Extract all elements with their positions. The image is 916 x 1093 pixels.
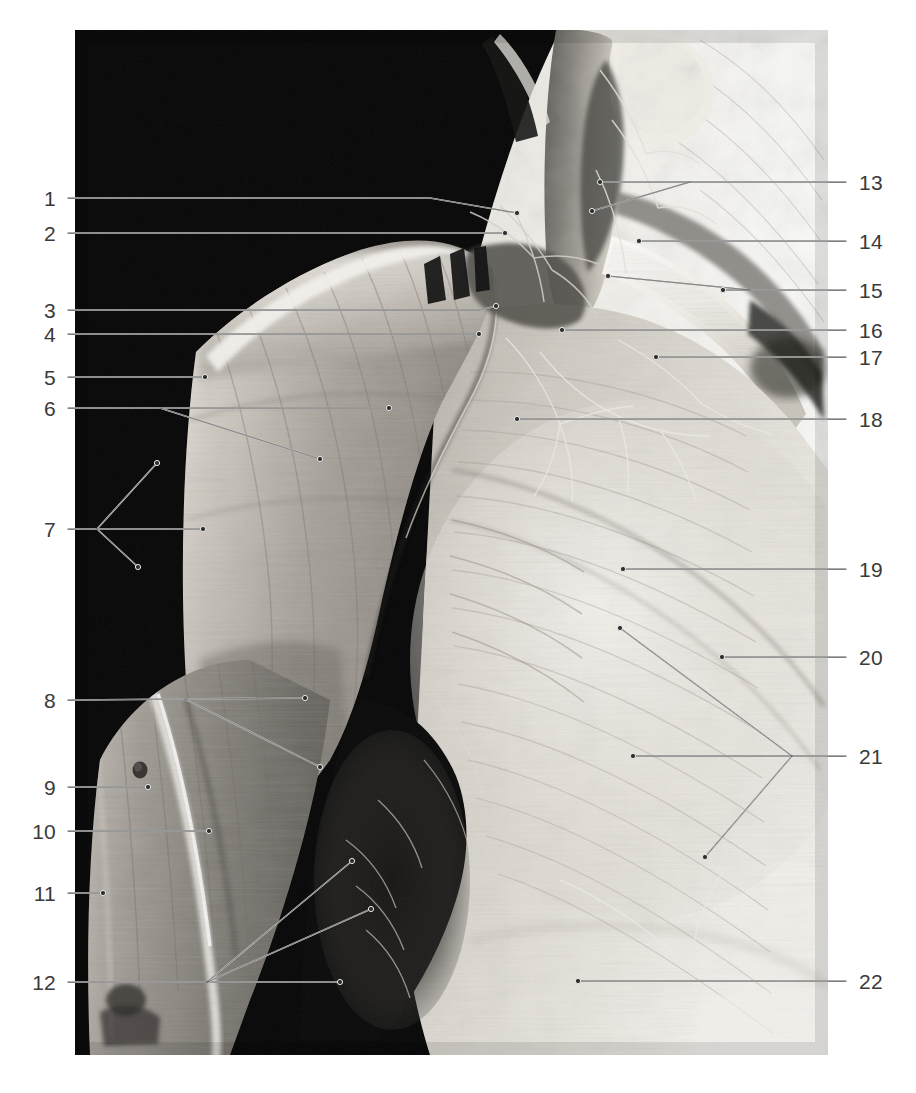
leader-endpoint-right-22 [575,978,580,983]
label-number-4: 4 [44,324,56,345]
anatomical-plate [0,0,916,1093]
label-number-14: 14 [859,231,883,252]
label-number-11: 11 [34,883,56,904]
leader-endpoint-left-6b [317,456,322,461]
leader-endpoint-left-8a [302,695,307,700]
label-number-10: 10 [32,821,56,842]
leader-endpoint-left-11 [100,890,105,895]
label-number-7: 7 [44,519,56,540]
label-number-12: 12 [32,972,56,993]
leader-endpoint-left-7b [200,526,205,531]
leader-endpoint-right-17 [653,354,658,359]
leader-endpoint-right-19 [620,566,625,571]
leader-endpoint-right-16 [559,327,564,332]
label-number-2: 2 [44,223,56,244]
leader-endpoint-right-13 [597,179,602,184]
label-number-16: 16 [859,320,883,341]
leader-endpoint-left-1 [514,210,519,215]
leader-endpoint-left-7a [154,460,159,465]
dissection-photograph [75,29,870,1060]
leader-endpoint-left-12a [349,858,354,863]
leader-endpoint-right-15 [720,287,725,292]
leader-endpoint-left-7c [135,564,140,569]
leader-endpoint-left-2 [502,230,507,235]
leader-endpoint-left-9 [145,784,150,789]
label-number-22: 22 [859,971,883,992]
leader-endpoint-right-13b [589,208,594,213]
label-number-18: 18 [859,409,883,430]
leader-endpoint-left-4 [476,331,481,336]
label-number-20: 20 [859,647,883,668]
label-number-13: 13 [859,172,883,193]
leader-endpoint-right-20 [719,654,724,659]
leader-endpoint-left-5 [202,374,207,379]
label-number-3: 3 [44,300,56,321]
leader-endpoint-right-21a [617,625,622,630]
leader-endpoint-right-15b [605,273,610,278]
label-number-8: 8 [44,690,56,711]
label-number-21: 21 [859,746,883,767]
label-number-9: 9 [44,777,56,798]
leader-endpoint-left-6 [386,405,391,410]
leader-endpoint-right-21c [702,854,707,859]
label-number-1: 1 [44,188,56,209]
leader-endpoint-left-10 [206,828,211,833]
leader-endpoint-right-21b [630,753,635,758]
leader-endpoint-left-12b [368,906,373,911]
label-number-15: 15 [859,280,883,301]
label-number-6: 6 [44,398,56,419]
leader-endpoint-right-18 [514,416,519,421]
label-number-19: 19 [859,559,883,580]
leader-endpoint-left-8b [317,764,322,769]
label-number-17: 17 [859,347,883,368]
leader-endpoint-left-3 [493,303,498,308]
label-number-5: 5 [44,367,56,388]
figure-page: 123456789101112 13141516171819202122 [0,0,916,1093]
leader-endpoint-left-12c [337,979,342,984]
leader-endpoint-right-14 [636,238,641,243]
